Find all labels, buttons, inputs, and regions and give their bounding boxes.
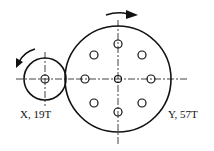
clockwise-arrow-icon: [106, 13, 128, 15]
counterclockwise-arrow-icon: [19, 49, 35, 62]
large-gear-label: Y, 57T: [168, 108, 198, 120]
small-gear-label: X, 19T: [20, 108, 51, 120]
gear-drawing: [0, 0, 214, 151]
gear-diagram: X, 19T Y, 57T: [0, 0, 214, 151]
